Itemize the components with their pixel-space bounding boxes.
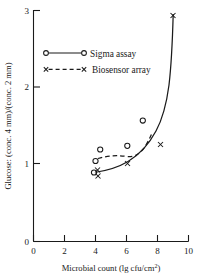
x-axis-title: Microbial count (lg cfu/cm2) [62,263,161,274]
x-tick-label-2: 2 [62,246,67,256]
legend-label-biosensor-array: Biosensor array [92,65,151,75]
x-axis-title-main: Microbial count (lg cfu/cm [62,263,155,273]
y-tick-label-1: 1 [25,159,30,169]
x-tick-label-8: 8 [155,246,160,256]
axes-group [34,10,189,242]
x-tick-label-0: 0 [31,246,36,256]
y-tick-label-0: 0 [25,237,30,247]
legend-marker-circle-right [82,51,87,56]
chart-figure: 3 2 1 0 0 2 4 6 8 10 Microbial count (lg… [0,0,204,279]
x-tick-label-10: 10 [184,246,194,256]
y-tick-labels: 3 2 1 0 [25,6,30,247]
data-point-sigma-3 [98,147,103,152]
chart-legend: Sigma assay Biosensor array [44,49,151,76]
y-tick-label-2: 2 [25,82,30,92]
y-axis-title: Glucose: (conc. 4 mm)/(conc. 2 mm) [3,62,13,189]
legend-marker-x-left [44,67,48,71]
series-biosensor-array-points [95,13,176,179]
legend-marker-circle-left [44,51,49,56]
x-tick-labels: 0 2 4 6 8 10 [31,246,193,256]
x-axis-title-tail: ) [157,263,160,273]
data-point-biosensor-4 [158,142,163,147]
legend-entry-biosensor-array: Biosensor array [44,65,151,75]
data-point-sigma-4 [125,143,130,148]
y-tick-label-3: 3 [25,6,30,16]
legend-marker-x-right [82,67,86,71]
legend-entry-sigma-assay: Sigma assay [44,49,137,59]
legend-label-sigma-assay: Sigma assay [90,49,137,59]
biosensor-fit-curve [95,14,174,173]
x-tick-label-6: 6 [124,246,129,256]
data-point-biosensor-1 [96,174,101,179]
x-tick-label-4: 4 [93,246,98,256]
data-point-sigma-5 [140,118,145,123]
data-point-sigma-2 [93,158,98,163]
chart-svg: 3 2 1 0 0 2 4 6 8 10 Microbial count (lg… [0,0,204,279]
